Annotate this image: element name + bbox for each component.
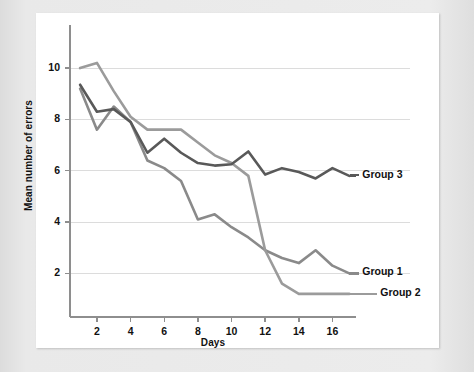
series-label-group-3: Group 3 [362, 168, 402, 180]
leader-group-3 [349, 175, 359, 176]
y-tick-label-4: 4 [36, 215, 60, 227]
y-tick-label-8: 8 [36, 112, 60, 124]
series-line-group-3 [80, 85, 349, 179]
series-label-group-2: Group 2 [380, 286, 420, 298]
y-tick-label-10: 10 [36, 61, 60, 73]
y-axis-title: Mean number of errors [23, 86, 34, 226]
y-tick-label-2: 2 [36, 266, 60, 278]
series-line-group-2 [80, 63, 349, 294]
x-tick-label-2: 2 [87, 325, 107, 337]
series-label-group-1: Group 1 [362, 265, 402, 277]
plot-svg [0, 0, 474, 372]
y-tick-label-6: 6 [36, 164, 60, 176]
tick-marks-group [65, 68, 332, 322]
x-tick-label-6: 6 [154, 325, 174, 337]
x-tick-label-14: 14 [289, 325, 309, 337]
x-tick-label-4: 4 [121, 325, 141, 337]
series-line-group-1 [80, 89, 349, 274]
series-lines-group [80, 63, 349, 294]
line-chart: 10 8 6 4 2 2 4 6 8 10 12 14 16 Mean numb… [0, 0, 474, 372]
x-tick-label-10: 10 [222, 325, 242, 337]
x-axis-title: Days [70, 337, 356, 348]
x-tick-label-8: 8 [188, 325, 208, 337]
x-tick-label-12: 12 [255, 325, 275, 337]
x-tick-label-16: 16 [322, 325, 342, 337]
